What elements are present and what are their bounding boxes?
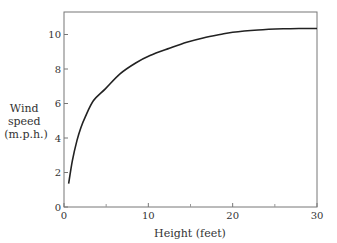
y-axis-title: Wind speed (m.p.h.) (4, 102, 48, 141)
x-tick-label: 10 (142, 210, 155, 221)
wind-speed-chart: 01020300246810 Height (feet) Wind speed … (0, 0, 337, 243)
y-tick-label: 8 (55, 64, 61, 75)
y-axis-title-line: (m.p.h.) (4, 128, 48, 141)
y-tick-label: 6 (55, 98, 61, 109)
y-axis-title-line: Wind (10, 102, 39, 115)
x-axis-title: Height (feet) (154, 227, 226, 240)
y-tick-label: 10 (48, 29, 61, 40)
y-tick-label: 4 (55, 133, 61, 144)
axis-ticks: 01020300246810 (48, 29, 323, 221)
y-axis-title-line: speed (8, 115, 41, 128)
x-tick-label: 20 (226, 210, 239, 221)
y-tick-label: 0 (55, 202, 61, 213)
series-layer (69, 28, 317, 183)
x-tick-label: 0 (61, 210, 67, 221)
y-tick-label: 2 (55, 167, 61, 178)
series-line (69, 28, 317, 183)
x-tick-label: 30 (311, 210, 324, 221)
